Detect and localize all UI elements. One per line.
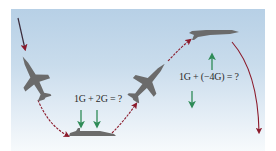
path-arrow-exit: [232, 42, 259, 132]
path-arrow-entry: [18, 18, 25, 49]
force-arrows: [81, 55, 212, 126]
climbing-aircraft-icon: [122, 54, 175, 108]
pullout-equation: 1G + 2G = ?: [74, 93, 122, 104]
pushover-equation: 1G + (−4G) = ?: [179, 71, 239, 82]
path-arrow-dive-to-bottom: [38, 100, 68, 136]
path-arrow-climb-to-top: [168, 40, 190, 61]
level-aircraft-top-icon: [189, 30, 239, 40]
level-aircraft-bottom-icon: [69, 128, 116, 136]
aircraft-group: [10, 30, 239, 136]
path-arrow-bottom-to-climb: [112, 104, 136, 133]
diving-aircraft-icon: [10, 50, 57, 106]
